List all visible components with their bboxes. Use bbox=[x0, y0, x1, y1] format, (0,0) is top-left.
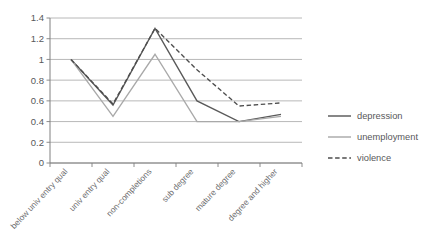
y-axis-tick-label: 0.2 bbox=[31, 137, 44, 148]
x-axis-tick-label: mature degree bbox=[193, 166, 238, 213]
y-axis-tick-label: 0.6 bbox=[31, 95, 44, 106]
chart-canvas: 00.20.40.60.811.21.4 below univ entry qu… bbox=[0, 0, 435, 250]
y-axis-tick-label: 1.4 bbox=[31, 12, 44, 23]
data-series-group bbox=[71, 28, 281, 121]
legend-label-violence: violence bbox=[357, 153, 391, 163]
x-axis-label-group: below univ entry qualuniv entry qualnon-… bbox=[8, 166, 279, 231]
y-axis-tick-label: 0.8 bbox=[31, 75, 44, 86]
x-axis-tick-label: univ entry qual bbox=[67, 166, 112, 213]
y-axis-tick-label: 0 bbox=[39, 157, 44, 168]
y-axis-label-group: 00.20.40.60.811.21.4 bbox=[31, 12, 44, 168]
y-axis-tick-label: 1.2 bbox=[31, 33, 44, 44]
y-axis-tick-label: 1 bbox=[39, 54, 44, 65]
y-axis-tick-group bbox=[47, 18, 51, 163]
x-axis-tick-label: sub degree bbox=[160, 166, 196, 204]
chart-legend: depressionunemploymentviolence bbox=[328, 111, 418, 163]
x-axis-tick-label: below univ entry qual bbox=[8, 166, 69, 230]
line-chart: 00.20.40.60.811.21.4 below univ entry qu… bbox=[0, 0, 435, 250]
legend-label-unemployment: unemployment bbox=[357, 132, 418, 142]
y-axis-tick-label: 0.4 bbox=[31, 116, 44, 127]
legend-label-depression: depression bbox=[357, 111, 402, 121]
x-axis-tick-label: non-completions bbox=[104, 167, 153, 219]
axis-line-group bbox=[50, 18, 302, 163]
gridline-group bbox=[50, 18, 302, 163]
series-line-depression bbox=[71, 28, 281, 121]
x-axis-tick-group bbox=[50, 163, 302, 167]
